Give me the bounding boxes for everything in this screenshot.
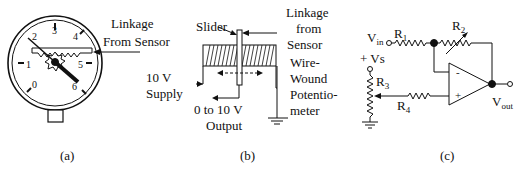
wound-label: Wound [290, 71, 327, 86]
vout-sub: out [501, 101, 513, 111]
r3-sub: 3 [385, 81, 390, 91]
pot-from-label: from [296, 21, 321, 36]
vout-label: Vout [492, 94, 513, 114]
supply-label: Supply [146, 86, 183, 101]
r3-label: R3 [376, 74, 389, 94]
pot-linkage-label: Linkage [286, 5, 329, 20]
r1-main: R [394, 26, 403, 41]
dial-number-4: 4 [73, 29, 78, 44]
caption-c: (c) [440, 148, 454, 163]
vin-label: Vin [367, 30, 383, 50]
meter-label: meter [290, 103, 320, 118]
opamp-minus-label: - [456, 65, 460, 80]
caption-a: (a) [60, 148, 74, 163]
r2-sub: 2 [461, 25, 466, 35]
gauge-from-sensor-label: From Sensor [103, 34, 170, 49]
r4-sub: 4 [406, 105, 411, 115]
opamp-plus-label: + [455, 88, 461, 103]
potentio-label: Potentio- [290, 87, 338, 102]
pot-sensor-label: Sensor [287, 37, 322, 52]
dial-number-0: 0 [32, 77, 37, 92]
wire-label: Wire- [290, 55, 320, 70]
caption-b: (b) [240, 148, 255, 163]
dial-number-1: 1 [26, 57, 31, 72]
r1-label: R1 [394, 26, 407, 46]
vin-sub: in [376, 37, 383, 47]
r1-sub: 1 [403, 33, 408, 43]
dial-number-2: 2 [32, 29, 37, 44]
r4-main: R [397, 98, 406, 113]
gauge-linkage-label: Linkage [111, 16, 154, 31]
slider-label: Slider [196, 19, 227, 34]
diagram-canvas [0, 0, 529, 172]
vin-main: V [367, 30, 376, 45]
vs-label: + Vs [360, 51, 385, 66]
r4-label: R4 [397, 98, 410, 118]
dial-number-3: 3 [52, 23, 57, 38]
supply-voltage-label: 10 V [146, 70, 171, 85]
r2-label: R2 [452, 18, 465, 38]
dial-number-6: 6 [72, 79, 77, 94]
r3-main: R [376, 74, 385, 89]
vout-main: V [492, 94, 501, 109]
output-label: Output [206, 118, 242, 133]
output-range-label: 0 to 10 V [194, 102, 243, 117]
dial-number-5: 5 [78, 57, 83, 72]
r2-main: R [452, 18, 461, 33]
